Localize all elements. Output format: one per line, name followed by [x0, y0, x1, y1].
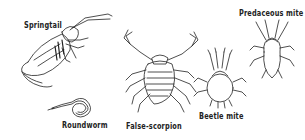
beetle-mite-label: Beetle mite [199, 112, 243, 121]
false-scorpion-illustration [124, 30, 198, 112]
predaceous-mite-illustration [250, 20, 294, 78]
springtail-label: Springtail [24, 21, 62, 30]
beetle-mite-illustration [194, 48, 246, 108]
predaceous-mite-label: Predaceous mite [239, 9, 303, 18]
soil-organisms-illustration: Springtail Roundworm False-scorpion Beet… [0, 0, 305, 140]
roundworm-label: Roundworm [62, 121, 108, 130]
false-scorpion-label: False-scorpion [126, 122, 182, 131]
roundworm-illustration [48, 98, 91, 117]
